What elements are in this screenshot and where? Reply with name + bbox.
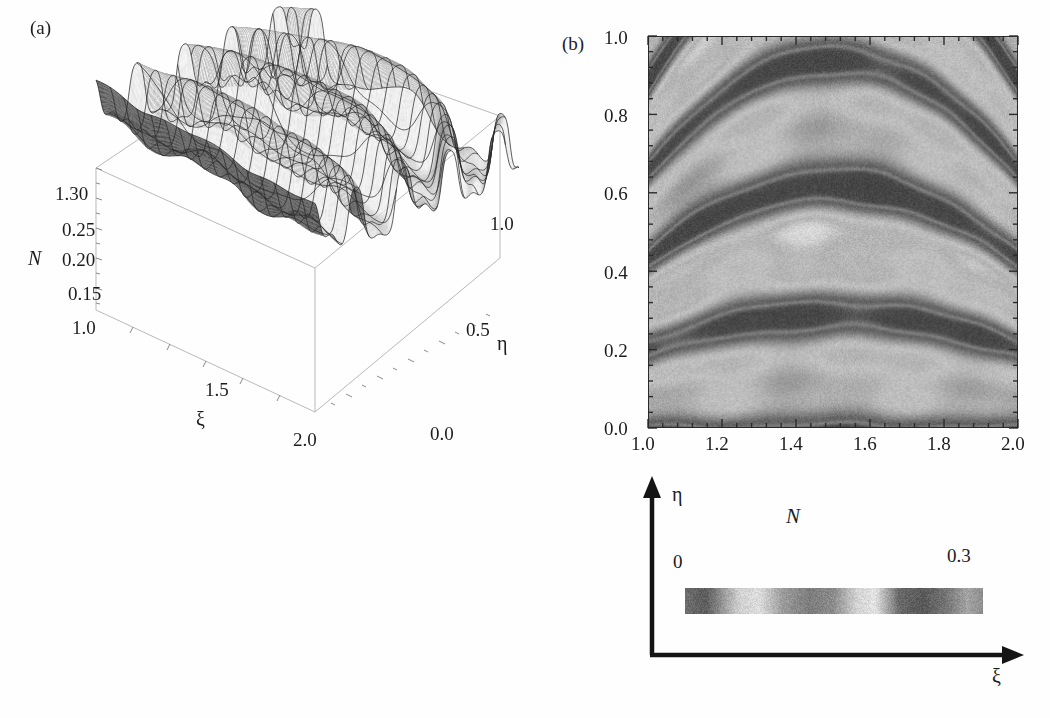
eta-tick-label-2: 1.0 — [490, 214, 514, 233]
panel-a-tag: (a) — [30, 18, 51, 37]
density-raster — [649, 37, 1017, 427]
n-tick-label-2: 0.20 — [62, 250, 95, 269]
y-tick-label-3: 0.4 — [604, 263, 628, 282]
colorbar-raster — [685, 588, 983, 614]
n-tick-label-0: 1.30 — [55, 184, 88, 203]
x-tick-label-1: 1.2 — [705, 434, 729, 453]
panel-b-tag: (b) — [562, 34, 584, 53]
n-tick-label-3: 0.15 — [68, 284, 101, 303]
eta-arrow-icon — [643, 476, 661, 655]
legend-title: N — [786, 506, 800, 527]
xi-tick-label-1: 1.5 — [205, 380, 229, 399]
x-tick-label-5: 2.0 — [1001, 434, 1025, 453]
legend-eta-label: η — [672, 484, 682, 504]
x-tick-label-2: 1.4 — [779, 434, 803, 453]
n-axis-label: N — [28, 248, 41, 268]
xi-tick-label-2: 2.0 — [293, 430, 317, 449]
x-tick-label-4: 1.8 — [927, 434, 951, 453]
y-tick-label-4: 0.2 — [604, 341, 628, 360]
figure-root: (a) 1.30 0.25 0.20 0.15 N 1.0 1.5 2.0 ξ … — [0, 0, 1050, 718]
density-plot-frame — [648, 36, 1018, 428]
panel-b-density-plot: (b) 1.0 0.8 0.6 0.4 0.2 0.0 1.0 1.2 1.4 … — [560, 14, 1040, 444]
panel-a-surface-plot: (a) 1.30 0.25 0.20 0.15 N 1.0 1.5 2.0 ξ … — [0, 0, 540, 470]
colorbar-swatch — [685, 588, 983, 614]
eta-axis-label: η — [497, 333, 507, 353]
eta-tick-label-1: 0.5 — [466, 320, 490, 339]
y-tick-label-0: 1.0 — [604, 28, 628, 47]
legend-xi-label: ξ — [992, 666, 1001, 686]
legend-min-label: 0 — [673, 552, 683, 571]
x-tick-label-3: 1.6 — [853, 434, 877, 453]
n-tick-label-1: 0.25 — [62, 220, 95, 239]
y-tick-label-5: 0.0 — [604, 419, 628, 438]
y-tick-label-1: 0.8 — [604, 106, 628, 125]
eta-tick-label-0: 0.0 — [430, 424, 454, 443]
legend-max-label: 0.3 — [947, 546, 971, 565]
x-tick-label-0: 1.0 — [631, 434, 655, 453]
xi-tick-label-0: 1.0 — [72, 318, 96, 337]
y-tick-label-2: 0.6 — [604, 184, 628, 203]
colorbar-legend: η ξ N 0 0.3 — [600, 470, 1050, 710]
xi-arrow-icon — [650, 646, 1024, 664]
xi-axis-label: ξ — [196, 409, 205, 429]
